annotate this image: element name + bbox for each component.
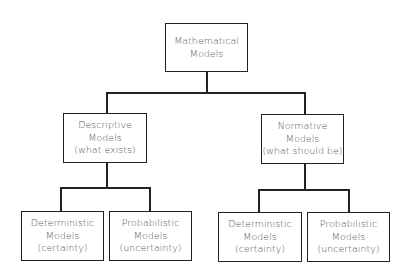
node-label-line: (certainty) <box>38 242 88 255</box>
connector-to-desc-deterministic <box>60 187 62 211</box>
node-label-line: (certainty) <box>235 243 285 256</box>
node-label-line: Models <box>243 231 276 244</box>
node-descriptive-probabilistic: Probabilistic Models (uncertainty) <box>109 211 192 261</box>
connector-descriptive-down <box>106 162 108 188</box>
node-label-line: (uncertainty) <box>120 242 182 255</box>
node-label-line: Models <box>190 48 223 61</box>
connector-descriptive-horizontal <box>60 187 151 189</box>
node-label-line: Descriptive <box>78 119 132 132</box>
node-label-line: (what exists) <box>74 144 135 157</box>
node-label-line: (uncertainty) <box>318 243 380 256</box>
node-normative-deterministic: Deterministic Models (certainty) <box>218 212 302 262</box>
node-label-line: Models <box>332 231 365 244</box>
connector-to-desc-probabilistic <box>149 187 151 211</box>
connector-to-norm-probabilistic <box>348 189 350 213</box>
node-label-line: Probabilistic <box>320 218 377 231</box>
node-descriptive-deterministic: Deterministic Models (certainty) <box>21 211 104 261</box>
node-label-line: Mathematical <box>174 35 239 48</box>
node-label-line: Models <box>134 230 167 243</box>
node-label-line: Models <box>286 133 319 146</box>
node-descriptive-models: Descriptive Models (what exists) <box>63 113 147 163</box>
node-normative-probabilistic: Probabilistic Models (uncertainty) <box>307 212 390 262</box>
node-label-line: Deterministic <box>31 217 95 230</box>
root-node-mathematical-models: Mathematical Models <box>165 23 248 72</box>
connector-normative-down <box>304 163 306 190</box>
node-label-line: Models <box>88 132 121 145</box>
node-label-line: Deterministic <box>228 218 292 231</box>
connector-normative-horizontal <box>258 189 350 191</box>
connector-to-descriptive <box>106 92 108 114</box>
node-normative-models: Normative Models (what should be) <box>261 114 344 164</box>
node-label-line: (what should be) <box>262 145 342 158</box>
hierarchy-diagram: Mathematical Models Descriptive Models (… <box>0 0 407 278</box>
node-label-line: Probabilistic <box>122 217 179 230</box>
connector-root-horizontal <box>106 92 306 94</box>
connector-to-norm-deterministic <box>258 189 260 213</box>
connector-to-normative <box>304 92 306 115</box>
connector-root-down <box>206 71 208 93</box>
node-label-line: Models <box>46 230 79 243</box>
node-label-line: Normative <box>278 120 328 133</box>
